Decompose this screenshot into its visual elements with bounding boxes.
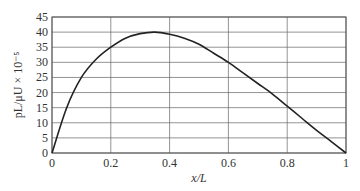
y-tick-label: 0: [42, 146, 48, 160]
y-tick-label: 30: [36, 55, 48, 69]
chart: 051015202530354045 00.20.40.60.81 x/L pL…: [0, 0, 360, 191]
y-tick-label: 5: [42, 131, 48, 145]
y-tick-label: 20: [36, 86, 48, 100]
x-axis-label: x/L: [190, 171, 207, 185]
x-tick-label: 0.8: [280, 156, 295, 170]
y-axis-ticks: 051015202530354045: [36, 10, 48, 160]
y-axis-label: pL/μU × 10⁻⁵: [11, 52, 25, 119]
x-tick-label: 0.6: [221, 156, 236, 170]
y-tick-label: 10: [36, 116, 48, 130]
y-tick-label: 45: [36, 10, 48, 24]
plot-frame: [52, 17, 346, 153]
y-tick-label: 35: [36, 40, 48, 54]
y-tick-label: 15: [36, 101, 48, 115]
y-tick-label: 40: [36, 25, 48, 39]
grid-lines: [52, 17, 346, 153]
x-tick-label: 0.2: [103, 156, 118, 170]
x-tick-label: 0: [49, 156, 55, 170]
y-tick-label: 25: [36, 70, 48, 84]
x-tick-label: 0.4: [162, 156, 177, 170]
x-axis-ticks: 00.20.40.60.81: [49, 156, 349, 170]
x-tick-label: 1: [343, 156, 349, 170]
